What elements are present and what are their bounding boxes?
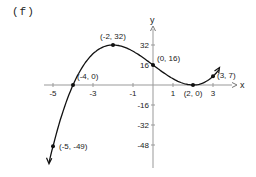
y-tick-label: 32 (140, 41, 149, 50)
x-tick-label: -5 (49, 89, 57, 98)
x-tick-label: -3 (89, 89, 97, 98)
data-point (211, 74, 215, 78)
point-label: (-5, -49) (59, 142, 88, 151)
point-label: (0, 16) (157, 54, 180, 63)
point-label: (-4, 0) (77, 72, 99, 81)
data-point (191, 83, 195, 87)
y-tick-label: -32 (137, 121, 149, 130)
y-tick-label: -48 (137, 141, 149, 150)
x-tick-label: 3 (211, 89, 216, 98)
x-tick-label: -1 (129, 89, 137, 98)
data-point (111, 43, 115, 47)
y-tick-label: 16 (140, 61, 149, 70)
x-axis-arrow-icon (232, 83, 237, 88)
function-graph: xy-5-3-1133216-16-32-48(-5, -49)(-4, 0)(… (0, 0, 256, 177)
y-tick-label: -16 (137, 101, 149, 110)
point-label: (-2, 32) (100, 32, 126, 41)
point-label: (3, 7) (217, 71, 236, 80)
data-point (51, 144, 55, 148)
x-axis-label: x (240, 80, 245, 90)
data-point (151, 63, 155, 67)
x-tick-label: 1 (171, 89, 176, 98)
y-axis-label: y (150, 15, 155, 25)
point-label: (2, 0) (184, 89, 203, 98)
data-point (71, 83, 75, 87)
